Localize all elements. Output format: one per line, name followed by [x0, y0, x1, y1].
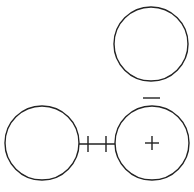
circles-diagram [0, 0, 194, 192]
caption-text [60, 186, 194, 192]
top-circle [114, 7, 188, 81]
left-circle [5, 106, 79, 180]
